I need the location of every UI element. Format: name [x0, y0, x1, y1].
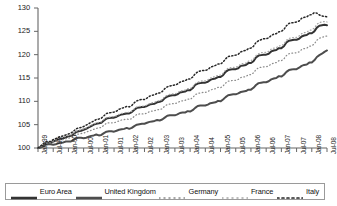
x-axis-tick-label: Jul-05 — [239, 137, 246, 154]
x-axis-tick-label: Jan-03 — [163, 135, 170, 154]
x-axis-tick-label: Jul-08 — [330, 137, 337, 154]
legend-label: France — [251, 187, 273, 196]
x-axis-tick-label: Jan-06 — [254, 135, 261, 154]
legend-item-euro-area[interactable]: Euro Area — [11, 187, 72, 196]
legend-swatch-icon — [76, 188, 102, 196]
legend-label: Euro Area — [40, 187, 72, 196]
y-axis-tick-label: 130 — [0, 4, 30, 12]
x-axis-tick-label: Jan-01 — [102, 135, 109, 154]
x-axis-tick-label: Jul-99 — [56, 137, 63, 154]
x-axis-tick-label: Jul-03 — [178, 137, 185, 154]
data-series-layer — [38, 13, 327, 148]
series-line-france — [38, 22, 327, 148]
series-line-euro-area — [38, 25, 327, 148]
y-axis-ticks — [34, 8, 38, 148]
y-axis-tick-label: 120 — [0, 51, 30, 59]
series-line-italy — [38, 13, 327, 148]
y-axis-tick-label: 105 — [0, 121, 30, 129]
x-axis-tick-label: Jan-07 — [284, 135, 291, 154]
x-axis-tick-label: Jul-02 — [147, 137, 154, 154]
x-axis-tick-label: Jan-99 — [41, 135, 48, 154]
chart-legend: Euro AreaUnited KingdomGermanyFranceItal… — [5, 183, 325, 200]
y-axis-tick-label: 115 — [0, 74, 30, 82]
x-axis-tick-label: Jul-07 — [300, 137, 307, 154]
legend-item-italy[interactable]: Italy — [277, 187, 319, 196]
x-axis-tick-label: Jul-00 — [87, 137, 94, 154]
y-axis-tick-label: 100 — [0, 144, 30, 152]
x-axis-tick-label: Jan-08 — [315, 135, 322, 154]
legend-label: Italy — [306, 187, 319, 196]
x-axis-tick-label: Jan-00 — [71, 135, 78, 154]
legend-label: United Kingdom — [105, 187, 156, 196]
y-axis-tick-label: 125 — [0, 27, 30, 35]
legend-item-france[interactable]: France — [222, 187, 273, 196]
x-axis-tick-label: Jul-04 — [208, 137, 215, 154]
legend-item-germany[interactable]: Germany — [159, 187, 218, 196]
x-axis-tick-label: Jan-04 — [193, 135, 200, 154]
x-axis-tick-label: Jul-06 — [269, 137, 276, 154]
legend-label: Germany — [188, 187, 218, 196]
legend-swatch-icon — [222, 188, 248, 196]
legend-item-united-kingdom[interactable]: United Kingdom — [76, 187, 156, 196]
x-axis-tick-label: Jul-01 — [117, 137, 124, 154]
y-axis-tick-label: 110 — [0, 97, 30, 105]
legend-swatch-icon — [277, 188, 303, 196]
x-axis-tick-label: Jan-05 — [224, 135, 231, 154]
plot-area: 100105110115120125130 Jan-99Jul-99Jan-00… — [0, 0, 332, 176]
legend-swatch-icon — [11, 188, 37, 196]
legend-swatch-icon — [159, 188, 185, 196]
x-axis-tick-label: Jan-02 — [132, 135, 139, 154]
